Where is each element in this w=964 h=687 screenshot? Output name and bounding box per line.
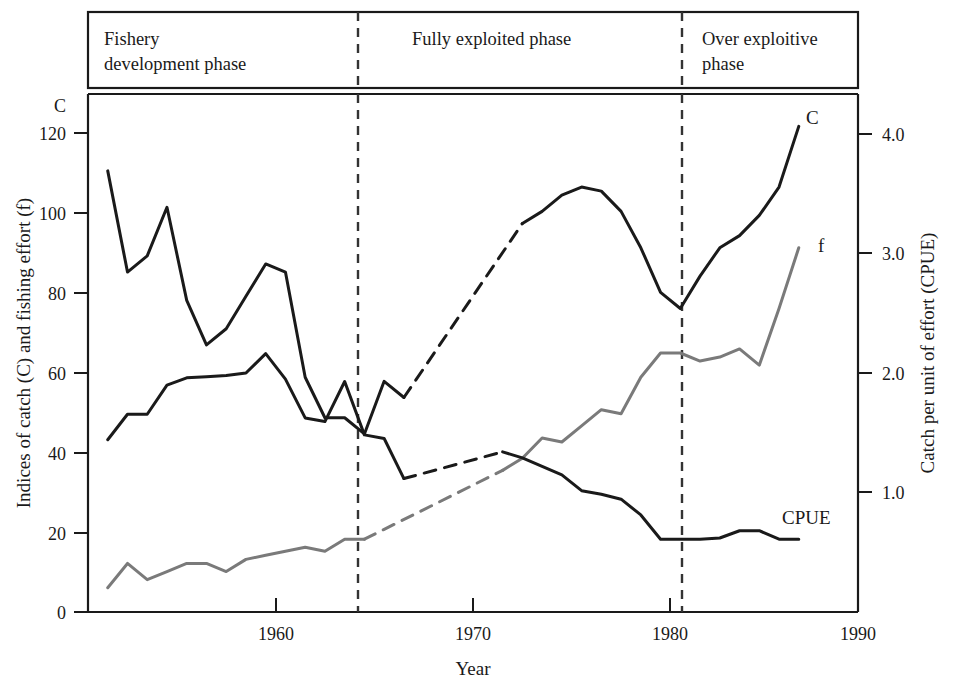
y-tick-label-20: 20	[48, 524, 66, 544]
x-tick-label-1980: 1980	[652, 624, 688, 644]
y-axis-left-corner-label: C	[54, 96, 66, 116]
x-tick-label-1970: 1970	[455, 624, 491, 644]
series-cpue-dashed	[404, 452, 503, 479]
series-cpue-segment-1	[108, 354, 404, 479]
series-c-segment-2	[522, 126, 798, 308]
series-cpue-segment-2	[503, 452, 799, 539]
y2-tick-label-4: 4.0	[882, 125, 905, 145]
phase-label-fully-exploited: Fully exploited phase	[412, 29, 571, 49]
y-tick-label-60: 60	[48, 364, 66, 384]
chart-canvas: Fishery development phase Fully exploite…	[0, 0, 964, 687]
y-axis-right-title: Catch per unit of effort (CPUE)	[917, 233, 939, 474]
series-f-dashed	[364, 470, 502, 539]
y-axis-right-ticks: 4.0 3.0 2.0 1.0	[858, 125, 905, 503]
figure-container: Fishery development phase Fully exploite…	[0, 0, 964, 687]
x-axis-title: Year	[455, 658, 491, 679]
y2-tick-label-2: 2.0	[882, 364, 905, 384]
series-label-effort: f	[818, 235, 825, 256]
x-axis-ticks: 1960 1970 1980 1990	[258, 598, 876, 644]
series-f-segment-2	[503, 248, 799, 471]
y2-tick-label-1: 1.0	[882, 483, 905, 503]
phase-box-outline	[88, 12, 858, 88]
data-series-layer	[108, 126, 799, 587]
series-label-cpue: CPUE	[782, 507, 831, 528]
y2-tick-label-3: 3.0	[882, 244, 905, 264]
phase-header-box: Fishery development phase Fully exploite…	[88, 12, 858, 88]
series-f-segment-1	[108, 539, 365, 588]
series-label-catch: C	[806, 107, 819, 128]
y-tick-label-120: 120	[39, 124, 66, 144]
y-tick-label-0: 0	[57, 603, 66, 623]
y-tick-label-80: 80	[48, 284, 66, 304]
phase-label-development-line2: development phase	[104, 54, 246, 74]
x-tick-label-1990: 1990	[840, 624, 876, 644]
x-tick-label-1960: 1960	[258, 624, 294, 644]
series-c-segment-1	[108, 171, 404, 434]
phase-label-over-exploitive-line1: Over exploitive	[702, 29, 818, 49]
y-axis-left-title: Indices of catch (C) and fishing effort …	[13, 198, 35, 508]
plot-phase-dividers	[358, 94, 682, 612]
series-c-dashed	[404, 224, 522, 398]
phase-label-development-line1: Fishery	[104, 29, 160, 49]
phase-label-over-exploitive-line2: phase	[702, 54, 744, 74]
y-tick-label-40: 40	[48, 444, 66, 464]
y-tick-label-100: 100	[39, 204, 66, 224]
y-axis-left-ticks: 120 100 80 60 40 20 0 C	[39, 96, 88, 623]
